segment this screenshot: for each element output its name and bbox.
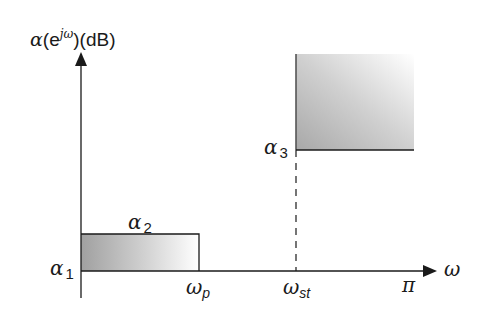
- alpha1-label: α1: [50, 256, 74, 282]
- x-axis-label: ω: [444, 257, 460, 281]
- alpha3-label: α3: [264, 135, 288, 161]
- pi-label: π: [401, 273, 416, 297]
- omega-st-label: ωst: [283, 275, 311, 301]
- filter-spec-diagram: α(ejω)(dB) ω α2 α1 α3 ωp ωst π: [0, 0, 484, 312]
- passband-region: [81, 234, 199, 271]
- omega-p-label: ωp: [186, 275, 210, 301]
- x-axis-arrow-icon: [423, 265, 437, 277]
- y-axis-label: α(ejω)(dB): [30, 27, 116, 50]
- stopband-region: [296, 54, 414, 150]
- y-axis-arrow-icon: [75, 52, 87, 66]
- alpha2-label: α2: [128, 210, 152, 236]
